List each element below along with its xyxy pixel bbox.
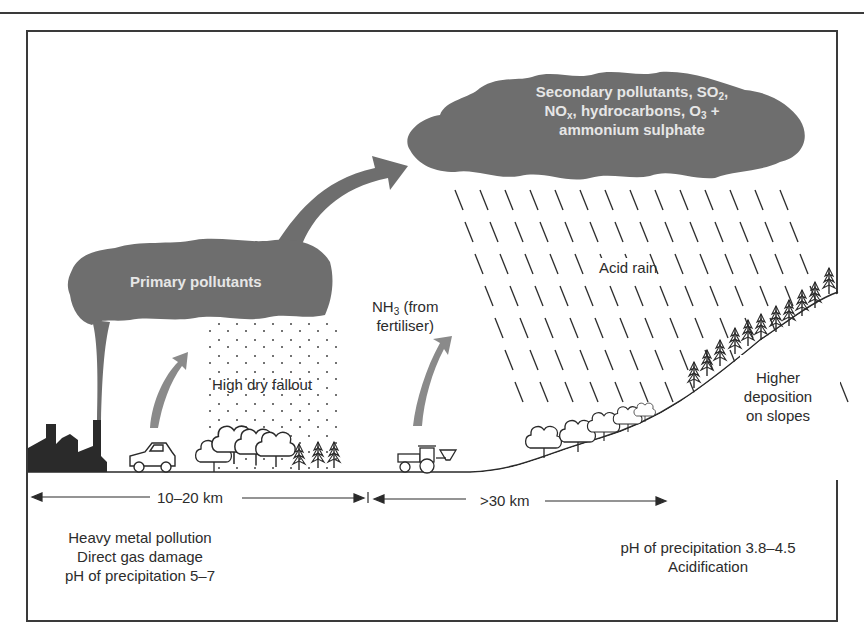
far-effect-1: pH of precipitation 3.8–4.5: [598, 538, 818, 557]
upward-arrow-icon: [150, 352, 188, 428]
secondary-line1-suffix: ,: [724, 83, 728, 100]
secondary-line1: Secondary pollutants, SO: [536, 83, 719, 100]
secondary-line2-c: +: [707, 102, 720, 119]
smoke-plume: [92, 320, 110, 420]
secondary-cloud-label: Secondary pollutants, SO2, NOx, hydrocar…: [462, 82, 802, 139]
distance-scale: [32, 492, 666, 505]
slopes-line3: on slopes: [742, 406, 814, 425]
distance-near-label: 10–20 km: [157, 488, 223, 507]
nh3-suffix: (from: [399, 298, 438, 315]
secondary-line2-a: NO: [545, 102, 568, 119]
nh3-label: NH3 (from fertiliser): [372, 297, 438, 335]
nh3-line2: fertiliser): [372, 316, 438, 335]
far-zone-effects: pH of precipitation 3.8–4.5 Acidificatio…: [598, 538, 818, 576]
near-effect-3: pH of precipitation 5–7: [50, 566, 230, 585]
slopes-line1: Higher: [742, 368, 814, 387]
transport-arrow: [272, 156, 408, 250]
dry-fallout-label: High dry fallout: [212, 375, 312, 394]
near-effect-1: Heavy metal pollution: [50, 528, 230, 547]
distance-far-label: >30 km: [480, 491, 530, 510]
upward-arrow-icon: [413, 336, 452, 426]
secondary-line2-b: , hydrocarbons, O: [573, 102, 701, 119]
car-icon: [130, 443, 175, 472]
slopes-label: Higher deposition on slopes: [742, 368, 814, 425]
far-effect-2: Acidification: [598, 557, 818, 576]
near-effect-2: Direct gas damage: [50, 547, 230, 566]
tractor-icon: [398, 446, 456, 473]
nh3-prefix: NH: [372, 298, 394, 315]
factory-icon: [28, 420, 107, 472]
slopes-line2: deposition: [742, 387, 814, 406]
primary-cloud-label: Primary pollutants: [130, 272, 262, 291]
secondary-line3: ammonium sulphate: [462, 120, 802, 139]
acid-rain-label: Acid rain: [599, 258, 657, 277]
near-zone-effects: Heavy metal pollution Direct gas damage …: [50, 528, 230, 585]
